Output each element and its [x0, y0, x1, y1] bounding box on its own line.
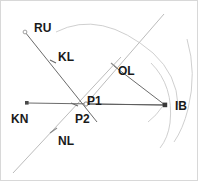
geometry-diagram-canvas: RU KL OL P1 P2 IB KN NL — [0, 0, 198, 181]
point-marker-ru-icon — [23, 30, 27, 34]
point-label-ib: IB — [175, 100, 187, 112]
small-arc-left-of-ib-icon — [148, 107, 162, 122]
point-markers-group — [23, 30, 167, 133]
nl-diagonal-line — [86, 14, 164, 104]
point-marker-kl-icon — [50, 60, 56, 63]
point-marker-ib-icon — [163, 103, 168, 108]
geometry-vector-layer — [1, 1, 198, 181]
point-label-kl: KL — [58, 51, 74, 63]
point-label-ol: OL — [118, 65, 135, 77]
inner-arc-near-ib-icon — [174, 39, 192, 142]
point-label-p2: P2 — [75, 113, 90, 125]
ru-to-p2-segment — [25, 32, 97, 122]
point-marker-kn-icon — [25, 101, 29, 105]
outer-arc-large-icon — [56, 24, 178, 105]
point-label-p1: P1 — [87, 95, 102, 107]
arc-group — [56, 24, 192, 148]
point-label-nl: NL — [58, 135, 74, 147]
point-label-kn: KN — [11, 113, 28, 125]
p1-to-ol-ray-line — [13, 57, 121, 173]
point-label-ru: RU — [34, 22, 51, 34]
point-marker-nl-icon — [50, 128, 57, 133]
short-arc-through-ib-icon — [151, 63, 171, 148]
